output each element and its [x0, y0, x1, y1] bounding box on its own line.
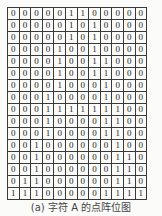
grid-cell: 0 [135, 176, 147, 188]
grid-cell: 0 [31, 68, 43, 80]
grid-cell: 0 [54, 20, 66, 32]
grid-cell: 0 [89, 92, 101, 104]
grid-cell: 1 [31, 152, 43, 164]
grid-cell: 0 [19, 8, 31, 20]
grid-cell: 0 [112, 8, 124, 20]
grid-cell: 0 [65, 92, 77, 104]
grid-cell: 0 [135, 32, 147, 44]
grid-cell: 1 [89, 68, 101, 80]
grid-cell: 0 [19, 32, 31, 44]
grid-cell: 0 [65, 44, 77, 56]
grid-cell: 0 [100, 20, 112, 32]
grid-cell: 0 [31, 104, 43, 116]
grid-cell: 0 [19, 104, 31, 116]
grid-cell: 1 [100, 188, 112, 200]
grid-cell: 1 [89, 56, 101, 68]
grid-cell: 0 [112, 32, 124, 44]
grid-cell: 0 [8, 92, 20, 104]
grid-cell: 0 [123, 68, 135, 80]
grid-cell: 0 [31, 8, 43, 20]
grid-cell: 0 [77, 176, 89, 188]
grid-cell: 0 [135, 8, 147, 20]
grid-cell: 0 [42, 188, 54, 200]
grid-cell: 0 [135, 116, 147, 128]
grid-row: 000111111100 [8, 104, 147, 116]
grid-cell: 1 [123, 164, 135, 176]
grid-cell: 0 [135, 68, 147, 80]
grid-cell: 0 [89, 188, 101, 200]
grid-cell: 0 [123, 44, 135, 56]
grid-cell: 0 [42, 20, 54, 32]
grid-cell: 1 [54, 104, 66, 116]
grid-cell: 0 [65, 128, 77, 140]
grid-cell: 0 [65, 140, 77, 152]
grid-cell: 1 [123, 188, 135, 200]
grid-cell: 1 [65, 8, 77, 20]
grid-cell: 0 [54, 188, 66, 200]
grid-cell: 0 [19, 56, 31, 68]
grid-cell: 0 [100, 140, 112, 152]
grid-cell: 0 [54, 32, 66, 44]
grid-cell: 1 [19, 176, 31, 188]
grid-cell: 0 [65, 68, 77, 80]
grid-cell: 1 [54, 44, 66, 56]
grid-cell: 0 [77, 68, 89, 80]
grid-cell: 1 [135, 188, 147, 200]
grid-cell: 0 [65, 116, 77, 128]
grid-cell: 0 [112, 68, 124, 80]
grid-cell: 0 [31, 92, 43, 104]
grid-cell: 0 [19, 68, 31, 80]
grid-cell: 1 [89, 44, 101, 56]
grid-cell: 0 [123, 32, 135, 44]
grid-cell: 0 [54, 8, 66, 20]
grid-cell: 0 [31, 32, 43, 44]
bitmap-figure: 0000011000000000010100000000010100000000… [0, 0, 162, 216]
grid-cell: 0 [77, 32, 89, 44]
grid-cell: 0 [135, 104, 147, 116]
grid-cell: 1 [112, 116, 124, 128]
grid-cell: 0 [54, 152, 66, 164]
grid-cell: 1 [112, 176, 124, 188]
grid-row: 000100001100 [8, 116, 147, 128]
grid-row: 001000000110 [8, 164, 147, 176]
grid-body: 0000011000000000010100000000010100000000… [8, 8, 147, 200]
grid-cell: 0 [77, 140, 89, 152]
grid-cell: 1 [77, 8, 89, 20]
grid-cell: 0 [123, 8, 135, 20]
grid-cell: 0 [8, 44, 20, 56]
grid-cell: 0 [112, 92, 124, 104]
grid-cell: 1 [8, 188, 20, 200]
grid-cell: 0 [54, 116, 66, 128]
grid-cell: 0 [135, 20, 147, 32]
grid-cell: 1 [31, 188, 43, 200]
grid-cell: 0 [54, 164, 66, 176]
grid-cell: 0 [77, 56, 89, 68]
grid-cell: 0 [42, 56, 54, 68]
grid-cell: 1 [65, 32, 77, 44]
grid-cell: 0 [77, 152, 89, 164]
grid-cell: 1 [54, 56, 66, 68]
grid-cell: 0 [19, 140, 31, 152]
grid-cell: 0 [112, 44, 124, 56]
grid-cell: 0 [135, 56, 147, 68]
grid-row: 000001010000 [8, 20, 147, 32]
grid-cell: 1 [89, 20, 101, 32]
grid-cell: 1 [112, 104, 124, 116]
grid-cell: 0 [112, 56, 124, 68]
grid-cell: 1 [100, 80, 112, 92]
grid-cell: 0 [77, 44, 89, 56]
grid-cell: 0 [31, 116, 43, 128]
grid-cell: 0 [77, 128, 89, 140]
grid-cell: 0 [65, 56, 77, 68]
grid-cell: 0 [100, 176, 112, 188]
grid-cell: 1 [42, 92, 54, 104]
grid-cell: 0 [65, 80, 77, 92]
grid-cell: 1 [100, 116, 112, 128]
grid-cell: 0 [31, 44, 43, 56]
dot-matrix-grid: 0000011000000000010100000000010100000000… [7, 7, 147, 200]
grid-row: 011000000110 [8, 176, 147, 188]
grid-cell: 0 [100, 152, 112, 164]
grid-cell: 0 [77, 116, 89, 128]
grid-cell: 1 [54, 80, 66, 92]
grid-cell: 1 [31, 176, 43, 188]
